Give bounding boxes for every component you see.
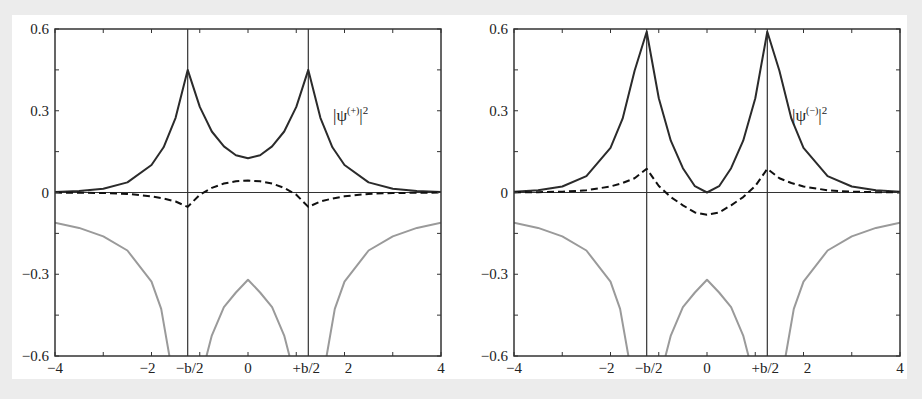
probability-density-curve	[55, 70, 441, 192]
x-tick-label: 4	[896, 360, 904, 376]
x-tick-label: −2	[140, 360, 156, 376]
x-tick-label: 0	[244, 360, 252, 376]
x-tick-label: 2	[804, 360, 812, 376]
y-tick-label: 0.3	[489, 103, 508, 119]
x-tick-label: +b/2	[292, 360, 320, 376]
y-tick-label: 0	[42, 185, 50, 201]
y-tick-label: −0.3	[481, 266, 508, 282]
series-group	[55, 70, 441, 356]
plot-right-psi-minus: −4−2−b/20+b/2240.60.30−0.3−0.6|ψ(−)|2	[481, 21, 904, 376]
y-tick-label: 0.6	[30, 21, 49, 37]
series-group	[514, 32, 900, 356]
x-tick-label: −4	[506, 360, 522, 376]
y-tick-label: 0.3	[30, 103, 49, 119]
x-tick-label: −4	[47, 360, 63, 376]
annotation-base: |ψ	[792, 106, 806, 125]
potential-curve	[514, 223, 900, 356]
figure: −4−2−b/20+b/2240.60.30−0.3−0.6|ψ(+)|2 −4…	[0, 0, 922, 399]
plot-left-psi-plus: −4−2−b/20+b/2240.60.30−0.3−0.6|ψ(+)|2	[22, 21, 445, 376]
y-tick-label: −0.3	[22, 266, 49, 282]
y-tick-label: 0	[501, 185, 509, 201]
y-tick-label: 0.6	[489, 21, 508, 37]
annotation-sup2: 2	[363, 104, 369, 116]
x-tick-label: 2	[345, 360, 353, 376]
curve-annotation: |ψ(+)|2	[333, 104, 368, 125]
x-tick-label: 0	[703, 360, 711, 376]
x-tick-label: −2	[599, 360, 615, 376]
probability-density-curve	[514, 32, 900, 193]
x-tick-label: +b/2	[751, 360, 779, 376]
annotation-sup2: 2	[822, 104, 828, 116]
curve-annotation: |ψ(−)|2	[792, 104, 827, 125]
annotation-sup: (+)	[347, 105, 359, 117]
density-difference-dashed-curve	[55, 181, 441, 207]
y-tick-label: −0.6	[481, 348, 509, 364]
y-tick-label: −0.6	[22, 348, 50, 364]
annotation-base: |ψ	[333, 106, 347, 125]
x-tick-label: −b/2	[635, 360, 663, 376]
potential-curve	[55, 223, 441, 356]
x-tick-label: 4	[437, 360, 445, 376]
annotation-sup: (−)	[806, 105, 818, 117]
x-tick-label: −b/2	[176, 360, 204, 376]
